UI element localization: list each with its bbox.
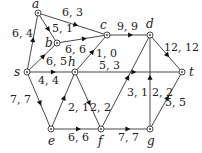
edge-label: 6, 3 [62, 6, 83, 19]
node-center-dot [37, 12, 39, 14]
edge-label: 5, 3 [99, 59, 120, 72]
node-d: d [146, 17, 154, 38]
node-center-dot [26, 71, 28, 73]
node-label: a [32, 0, 39, 11]
node-f: f [97, 126, 105, 148]
node-label: t [189, 65, 194, 79]
flow-network-diagram: 6, 46, 35, 16, 66, 59, 91, 012, 124, 45,… [0, 0, 202, 153]
edge-label: 12, 12 [164, 41, 199, 54]
node-label: s [14, 65, 20, 79]
node-center-dot [181, 71, 183, 73]
node-center-dot [56, 42, 58, 44]
edge-line [57, 35, 107, 43]
node-center-dot [149, 34, 151, 36]
node-center-dot [100, 128, 102, 130]
edge-label: 6, 5 [46, 55, 67, 68]
arrowhead-icon [73, 22, 79, 27]
edge-g-t: 5, 5 [150, 72, 186, 129]
node-center-dot [106, 34, 108, 36]
arrowhead-icon [128, 32, 133, 37]
node-label: e [48, 134, 55, 148]
edge-s-a: 6, 4 [12, 13, 38, 72]
edge-e-f: 6, 6 [51, 126, 101, 144]
node-label: c [100, 18, 107, 32]
arrowhead-icon [82, 36, 87, 41]
node-label: d [146, 17, 154, 31]
node-t: t [179, 65, 194, 79]
edge-label: 2, 1 [68, 101, 89, 114]
arrowhead-icon [45, 26, 50, 32]
node-c: c [100, 18, 110, 38]
edge-label: 5, 1 [52, 22, 73, 35]
edge-label: 3, 1 [127, 86, 148, 99]
edge-label: 6, 6 [68, 131, 89, 144]
edge-label: 5, 5 [165, 96, 186, 109]
edge-label: 7, 7 [10, 93, 31, 106]
node-center-dot [74, 71, 76, 73]
edge-label: 9, 9 [117, 20, 138, 33]
edge-label: 7, 7 [118, 131, 139, 144]
node-label: f [97, 134, 105, 148]
edge-label: 2, 2 [90, 101, 111, 114]
node-label: b [45, 36, 53, 50]
node-a: a [32, 0, 41, 16]
node-e: e [48, 126, 55, 148]
edge-h-t: 5, 3 [75, 59, 182, 75]
node-g: g [147, 126, 155, 148]
node-label: h [68, 55, 76, 69]
node-label: g [147, 134, 155, 148]
edge-label: 6, 4 [12, 27, 33, 40]
edge-label: 4, 4 [38, 74, 59, 87]
node-b: b [45, 36, 60, 50]
node-center-dot [50, 128, 52, 130]
edge-c-d: 9, 9 [107, 20, 150, 38]
edge-s-h: 4, 4 [27, 69, 75, 87]
node-center-dot [149, 128, 151, 130]
edge-f-g: 7, 7 [101, 126, 150, 144]
arrowhead-icon [147, 75, 152, 80]
